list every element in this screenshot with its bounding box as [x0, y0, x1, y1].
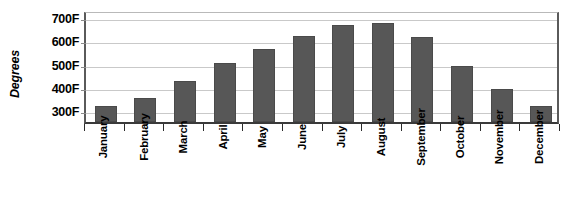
x-axis-tick-mark	[163, 124, 164, 131]
bar-series	[86, 13, 557, 122]
bar	[174, 81, 196, 122]
x-axis-tick-mark	[480, 124, 481, 131]
bar	[372, 23, 394, 122]
y-axis-tick-label: 500F	[52, 59, 79, 73]
x-axis-tick-mark	[124, 124, 125, 131]
bar	[253, 49, 275, 123]
bar	[293, 36, 315, 122]
x-axis-tick-mark	[519, 124, 520, 131]
plot-area	[84, 12, 559, 124]
bar	[451, 66, 473, 122]
y-axis-tick-labels: 300F400F500F600F700F	[30, 12, 82, 124]
y-axis-tick-label: 600F	[52, 35, 79, 49]
y-axis-tick-label: 400F	[52, 82, 79, 96]
x-axis-category-label: December	[503, 131, 575, 203]
x-axis-tick-mark	[322, 124, 323, 131]
bar-chart: Degrees 300F400F500F600F700F JanuaryFebr…	[0, 0, 584, 204]
x-axis-tick-mark	[203, 124, 204, 131]
x-axis-category-text: December	[533, 110, 545, 164]
x-axis-tick-mark	[242, 124, 243, 131]
x-axis-tick-mark	[440, 124, 441, 131]
x-axis-tick-mark	[401, 124, 402, 131]
x-axis-tick-mark	[559, 124, 560, 131]
x-axis-tick-mark	[282, 124, 283, 131]
y-axis-tick-label: 700F	[52, 12, 79, 26]
x-axis-category-labels: JanuaryFebruaryMarchAprilMayJuneJulyAugu…	[84, 131, 559, 203]
bar	[214, 63, 236, 123]
bar	[332, 25, 354, 122]
y-axis-tick-label: 300F	[52, 105, 79, 119]
x-axis-tick-mark	[84, 124, 85, 131]
y-axis-title: Degrees	[2, 26, 28, 122]
y-axis-title-label: Degrees	[8, 50, 22, 98]
x-axis-tick-mark	[361, 124, 362, 131]
